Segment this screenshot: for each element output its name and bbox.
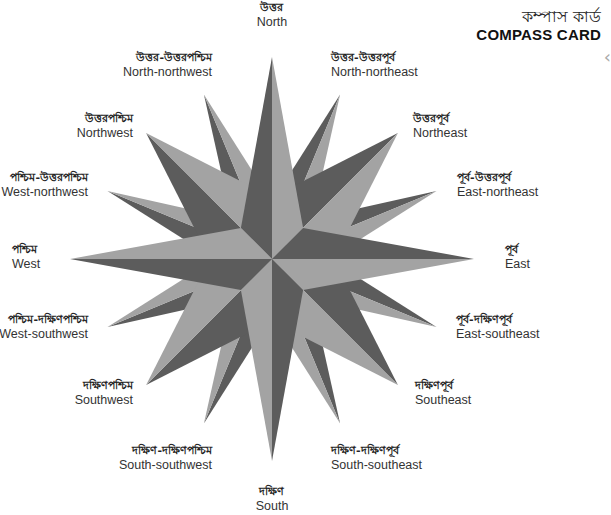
label-northeast: উত্তরপূর্ব Northeast: [413, 111, 467, 141]
label-south: দক্ষিণ South: [256, 484, 289, 514]
label-southeast: দক্ষিণপূর্ব Southeast: [415, 378, 471, 408]
label-east: পূর্ব East: [505, 242, 530, 272]
label-north-northwest: উত্তর-উত্তরপশ্চিম North-northwest: [123, 50, 212, 80]
label-southwest: দক্ষিণপশ্চিম Southwest: [75, 378, 133, 408]
star-point-e: [272, 228, 474, 290]
star-point-w: [70, 228, 272, 290]
star-point-n: [241, 57, 303, 259]
label-east-northeast: পূর্ব-উত্তরপূর্ব East-northeast: [457, 170, 538, 200]
label-north: উত্তর North: [257, 0, 288, 30]
label-west-southwest: পশ্চিম-দক্ষিণপশ্চিম West-southwest: [0, 312, 88, 342]
star-point-s: [241, 259, 303, 461]
label-south-southwest: দক্ষিণ-দক্ষিণপশ্চিম South-southwest: [119, 443, 212, 473]
label-northwest: উত্তরপশ্চিম Northwest: [77, 111, 133, 141]
label-west: পশ্চিম West: [12, 242, 40, 272]
label-east-southeast: পূর্ব-দক্ষিণপূর্ব East-southeast: [456, 312, 539, 342]
label-west-northwest: পশ্চিম-উত্তরপশ্চিম West-northwest: [1, 170, 88, 200]
label-north-northeast: উত্তর-উত্তরপূর্ব North-northeast: [331, 50, 418, 80]
label-south-southeast: দক্ষিণ-দক্ষিণপূর্ব South-southeast: [331, 443, 422, 473]
